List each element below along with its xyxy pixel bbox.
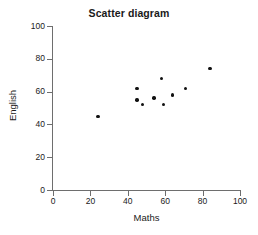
x-tick-label: 20 [78, 197, 102, 206]
scatter-chart-figure: Scatter diagram 020406080100 02040608010… [0, 0, 258, 235]
y-tick-label: 0 [19, 186, 45, 195]
chart-title: Scatter diagram [0, 7, 258, 19]
y-tick-label: 20 [19, 153, 45, 162]
x-tick-label: 80 [191, 197, 215, 206]
y-tick-mark [47, 190, 52, 191]
y-tick-label: 100 [19, 22, 45, 31]
data-point [152, 96, 155, 99]
data-point [96, 115, 99, 118]
y-axis-title: English [7, 76, 18, 136]
y-tick-label: 60 [19, 87, 45, 96]
x-tick-label: 60 [153, 197, 177, 206]
x-tick-label: 0 [41, 197, 65, 206]
y-tick-mark [47, 157, 52, 158]
data-point [135, 98, 138, 101]
data-point [171, 93, 174, 96]
y-tick-mark [47, 92, 52, 93]
y-tick-mark [47, 59, 52, 60]
y-tick-label: 80 [19, 54, 45, 63]
y-tick-mark [47, 26, 52, 27]
data-point [135, 87, 138, 90]
x-tick-label: 100 [228, 197, 252, 206]
y-tick-mark [47, 124, 52, 125]
x-axis-line [52, 190, 241, 191]
x-tick-label: 40 [116, 197, 140, 206]
y-tick-label: 40 [19, 120, 45, 129]
plot-area [53, 26, 240, 190]
x-axis-title: Maths [53, 212, 240, 223]
